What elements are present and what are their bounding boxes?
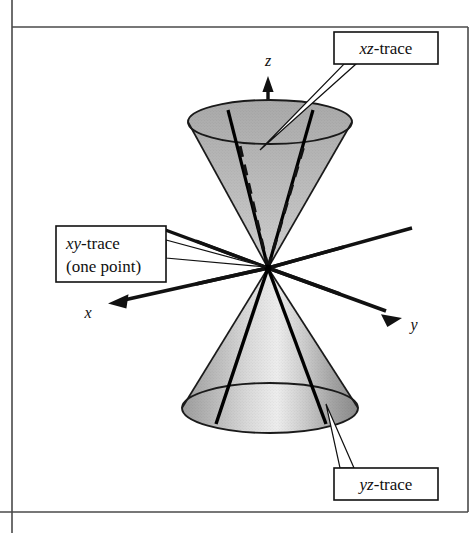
- y-axis-arrowhead: [381, 314, 402, 327]
- xz-trace-label-roman: -trace: [374, 39, 413, 58]
- xz-trace-label-italic: xz: [359, 39, 375, 58]
- yz-trace-label-roman: -trace: [374, 475, 413, 494]
- yz-trace-label: yz-trace: [358, 475, 413, 494]
- x-axis-label: x: [83, 304, 91, 321]
- xy-trace-sublabel: (one point): [66, 257, 141, 276]
- xy-trace-label-italic: xy: [65, 234, 82, 253]
- z-axis-arrowhead: [262, 76, 273, 92]
- cone-trace-diagram: xz-trace xy-trace (one point) yz-trace x…: [0, 0, 476, 533]
- negative-x-near-origin: [268, 247, 344, 268]
- y-axis-label: y: [408, 316, 418, 334]
- callout-yz-trace[interactable]: yz-trace: [334, 468, 438, 500]
- origin-point: [264, 264, 271, 271]
- yz-trace-label-italic: yz: [358, 475, 375, 494]
- upper-cone-inner-texture: [188, 100, 352, 268]
- xy-trace-label-roman: -trace: [81, 234, 120, 253]
- z-axis-label: z: [264, 52, 272, 69]
- xz-trace-label: xz-trace: [359, 39, 413, 58]
- xy-trace-label: xy-trace: [65, 234, 120, 253]
- callout-xy-trace[interactable]: xy-trace (one point): [56, 226, 166, 282]
- x-axis-arrowhead: [108, 294, 129, 308]
- xy-trace-leader: [166, 240, 266, 267]
- callout-xz-trace[interactable]: xz-trace: [334, 32, 438, 64]
- x-axis-near-origin: [196, 268, 268, 284]
- upper-cone: [188, 100, 352, 268]
- figure-root: xz-trace xy-trace (one point) yz-trace x…: [0, 0, 476, 533]
